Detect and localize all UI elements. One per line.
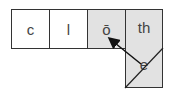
diagram-overlay	[0, 0, 169, 91]
arrow-e-to-o	[110, 39, 141, 64]
cross-out-line	[125, 48, 163, 88]
